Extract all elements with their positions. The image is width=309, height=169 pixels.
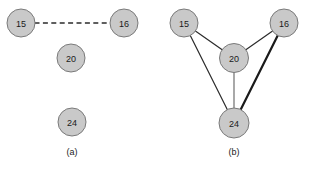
node-circle-a-24 <box>58 108 86 136</box>
node-circle-b-16 <box>270 9 298 37</box>
graph-figure: 1516202415162024 (a)(b) <box>0 0 309 169</box>
graph-edge-b-15-24 <box>190 35 227 110</box>
panel-caption-a: (a) <box>67 147 78 157</box>
caption-layer: (a)(b) <box>67 147 240 157</box>
graph-node-a-24[interactable]: 24 <box>58 108 86 136</box>
node-circle-b-24 <box>219 108 249 138</box>
graph-node-a-15[interactable]: 15 <box>7 9 35 37</box>
node-circle-a-15 <box>7 9 35 37</box>
node-circle-b-20 <box>220 44 249 73</box>
graph-edge-b-16-24 <box>240 35 277 110</box>
node-layer: 1516202415162024 <box>7 9 298 138</box>
node-circle-a-20 <box>57 44 85 72</box>
graph-node-a-16[interactable]: 16 <box>110 9 138 37</box>
graph-node-b-24[interactable]: 24 <box>219 108 249 138</box>
graph-edge-b-15-20 <box>195 31 222 50</box>
graph-node-b-16[interactable]: 16 <box>270 9 298 37</box>
node-circle-a-16 <box>110 9 138 37</box>
graph-node-b-15[interactable]: 15 <box>170 9 198 37</box>
graph-node-a-20[interactable]: 20 <box>57 44 85 72</box>
panel-caption-b: (b) <box>229 147 240 157</box>
node-circle-b-15 <box>170 9 198 37</box>
graph-node-b-20[interactable]: 20 <box>220 44 249 73</box>
graph-edge-b-16-20 <box>245 31 272 50</box>
